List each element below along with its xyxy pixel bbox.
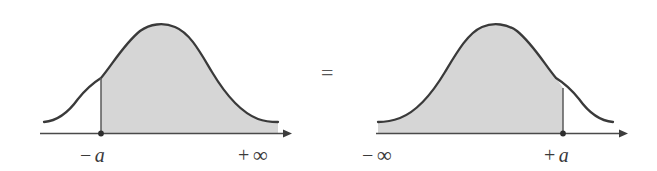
left-upper-bound-sign: + [238,144,253,166]
left-axis-arrow-icon [283,129,292,137]
right-axis-arrow-icon [619,129,628,137]
right-upper-bound-symbol: a [559,144,570,166]
right-lower-bound-sign: − [362,144,377,166]
right-upper-bound-dot [560,131,566,137]
right-lower-bound-symbol: ∞ [377,143,392,167]
left-lower-bound-symbol: a [95,144,106,166]
figure-container: = −a +∞ −∞ +a [0,0,657,171]
left-lower-bound-sign: − [80,144,95,166]
left-upper-bound-label: +∞ [238,145,268,166]
left-upper-bound-symbol: ∞ [253,143,268,167]
right-lower-bound-label: −∞ [362,145,392,166]
right-upper-bound-label: +a [544,145,569,165]
left-lower-bound-label: −a [80,145,105,165]
equals-sign: = [321,62,333,84]
right-panel [376,24,628,137]
right-upper-bound-sign: + [544,144,559,166]
left-panel [40,24,292,137]
left-lower-bound-dot [98,131,104,137]
right-shaded-region [378,24,563,133]
